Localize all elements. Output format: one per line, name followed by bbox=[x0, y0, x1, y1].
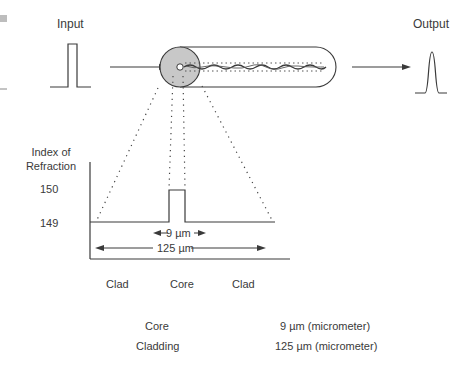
arrowhead-right bbox=[198, 230, 206, 236]
legend-core-value: 9 µm (micrometer) bbox=[280, 320, 370, 333]
core-width-label: 9 µm bbox=[166, 227, 191, 240]
output-label: Output bbox=[413, 18, 449, 31]
projection-line-core-right bbox=[183, 76, 185, 189]
projection-line-core-left bbox=[169, 76, 173, 189]
y-axis-label-line1: Index of bbox=[28, 146, 74, 159]
index-profile bbox=[90, 190, 275, 222]
arrowhead-left bbox=[153, 230, 161, 236]
region-clad-left: Clad bbox=[106, 278, 129, 291]
cladding-width-label: 125 µm bbox=[157, 242, 194, 255]
input-pulse-icon bbox=[50, 44, 91, 87]
projection-line-right bbox=[202, 86, 273, 222]
fiber-diagram bbox=[0, 0, 471, 365]
region-clad-right: Clad bbox=[232, 278, 255, 291]
projection-line-left bbox=[96, 88, 158, 222]
tick-150: 150 bbox=[40, 183, 58, 196]
edge-artifact bbox=[0, 15, 7, 22]
legend-cladding-value: 125 µm (micrometer) bbox=[275, 340, 377, 353]
legend-core-name: Core bbox=[145, 320, 169, 333]
output-pulse-icon bbox=[415, 52, 447, 93]
region-core: Core bbox=[170, 278, 194, 291]
y-axis-label-line2: Refraction bbox=[22, 160, 80, 173]
input-label: Input bbox=[57, 18, 84, 31]
tick-149: 149 bbox=[40, 217, 58, 230]
core-dot bbox=[177, 64, 183, 70]
legend-cladding-name: Cladding bbox=[136, 340, 179, 353]
